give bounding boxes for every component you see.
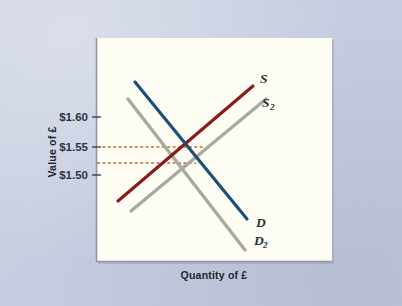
y-tick-label-160: $1.60 xyxy=(59,111,88,123)
curve-label-D: D xyxy=(255,215,266,230)
curve-label-S: S xyxy=(260,71,268,86)
figure-container: $1.60 $1.55 $1.50 S S 2 D D 2 Quantity o… xyxy=(0,0,402,306)
plot-panel xyxy=(96,38,334,264)
y-tick-label-150: $1.50 xyxy=(59,169,88,181)
x-axis-title: Quantity of £ xyxy=(181,269,248,281)
y-axis-title: Value of £ xyxy=(46,126,58,177)
y-tick-label-155: $1.55 xyxy=(59,141,88,153)
curve-label-D2-subscript: 2 xyxy=(262,240,268,250)
curve-label-S2-subscript: 2 xyxy=(269,102,275,112)
supply-demand-chart: $1.60 $1.55 $1.50 S S 2 D D 2 Quantity o… xyxy=(0,0,402,306)
plot-panel-background xyxy=(96,38,332,262)
curve-label-S2: S xyxy=(262,95,270,110)
y-axis-ticks: $1.60 $1.55 $1.50 xyxy=(59,111,101,181)
